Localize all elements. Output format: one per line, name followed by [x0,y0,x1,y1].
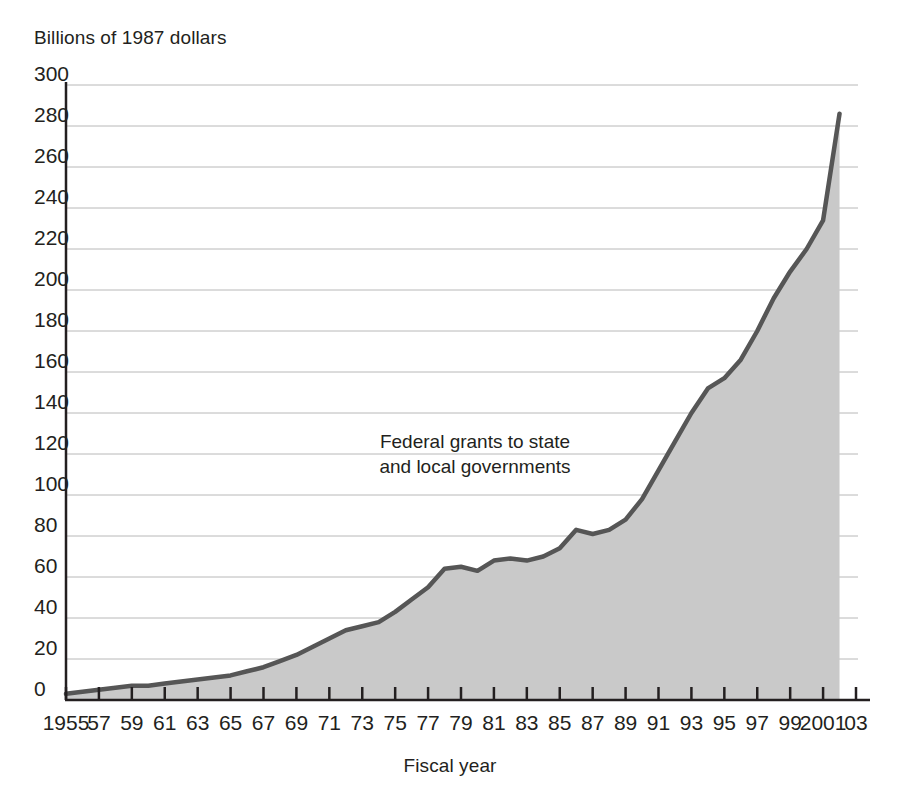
y-axis-tick-label: 140 [34,391,69,412]
y-axis-tick-label: 80 [34,514,57,535]
x-axis-tick-label: 67 [252,712,275,733]
y-axis-tick-label: 60 [34,555,57,576]
y-axis-tick-label: 280 [34,104,69,125]
x-axis-tick-label: 89 [614,712,637,733]
x-axis-title: Fiscal year [0,755,900,777]
x-axis-tick-label: 77 [416,712,439,733]
x-axis-tick-label: 2001 [800,712,847,733]
x-axis-tick-label: 99 [778,712,801,733]
series-annotation-line-1: Federal grants to state [355,429,595,454]
x-axis-tick-label: 83 [515,712,538,733]
x-axis-tick-label: 71 [318,712,341,733]
series-annotation: Federal grants to state and local govern… [355,429,595,479]
y-axis-tick-label: 260 [34,145,69,166]
x-axis-tick-label: 81 [482,712,505,733]
x-axis-tick-label: 95 [713,712,736,733]
x-axis-tick-label: 79 [449,712,472,733]
y-axis-tick-label: 100 [34,473,69,494]
x-axis-tick-label: 03 [844,712,867,733]
plot-area [0,0,900,791]
x-axis-tick-label: 87 [581,712,604,733]
y-axis-tick-label: 20 [34,637,57,658]
x-axis-tick-label: 73 [351,712,374,733]
x-axis-tick-label: 69 [285,712,308,733]
y-axis-tick-label: 220 [34,227,69,248]
x-axis-tick-label: 61 [153,712,176,733]
x-axis-tick-label: 91 [647,712,670,733]
y-axis-tick-label: 0 [34,678,46,699]
y-axis-tick-label: 300 [34,63,69,84]
x-axis-tick-label: 65 [219,712,242,733]
y-axis-tick-label: 40 [34,596,57,617]
x-axis-tick-label: 59 [120,712,143,733]
y-axis-tick-label: 180 [34,309,69,330]
x-axis-tick-label: 75 [383,712,406,733]
x-axis-tick-label: 1955 [43,712,90,733]
y-axis-tick-label: 240 [34,186,69,207]
x-axis-tick-label: 97 [746,712,769,733]
y-axis-tick-label: 120 [34,432,69,453]
x-axis-tick-label: 63 [186,712,209,733]
y-axis-tick-label: 160 [34,350,69,371]
x-axis-tick-label: 57 [87,712,110,733]
series-annotation-line-2: and local governments [355,454,595,479]
chart-container: Billions of 1987 dollars 300280260240220… [0,0,900,791]
x-axis-tick-label: 93 [680,712,703,733]
y-axis-tick-label: 200 [34,268,69,289]
area-fill [66,114,840,700]
area-series [66,114,840,700]
x-axis-tick-label: 85 [548,712,571,733]
